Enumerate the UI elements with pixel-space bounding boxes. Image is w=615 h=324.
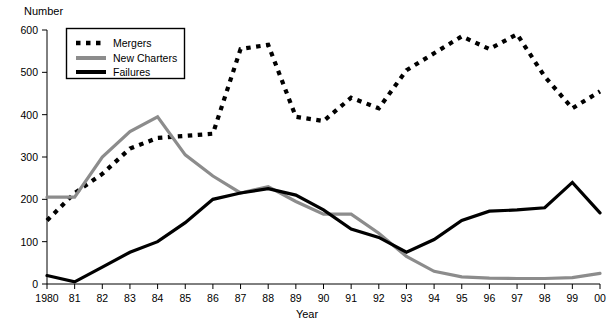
x-tick-label: 91 <box>345 292 357 304</box>
x-tick-label: 00 <box>594 292 606 304</box>
legend-label-failures: Failures <box>113 66 150 78</box>
series-line-new-charters <box>47 117 600 279</box>
x-tick-label: 81 <box>69 292 81 304</box>
y-tick-label: 500 <box>20 66 38 78</box>
x-axis-ticks: 1980818283848586878889909192939495969798… <box>35 284 606 304</box>
x-tick-label: 96 <box>484 292 496 304</box>
line-chart: Number 0100200300400500600 1980818283848… <box>0 0 615 324</box>
y-axis-ticks: 0100200300400500600 <box>20 24 47 290</box>
x-tick-label: 97 <box>511 292 523 304</box>
x-tick-label: 85 <box>179 292 191 304</box>
x-axis-title: Year <box>296 308 319 320</box>
x-tick-label: 89 <box>290 292 302 304</box>
legend-label-new-charters: New Charters <box>113 52 177 64</box>
x-tick-label: 99 <box>567 292 579 304</box>
y-tick-label: 300 <box>20 151 38 163</box>
x-tick-label: 83 <box>124 292 136 304</box>
y-tick-label: 200 <box>20 193 38 205</box>
x-tick-label: 93 <box>401 292 413 304</box>
x-tick-label: 88 <box>262 292 274 304</box>
x-tick-label: 95 <box>456 292 468 304</box>
x-tick-label: 94 <box>428 292 440 304</box>
chart-legend: MergersNew ChartersFailures <box>67 29 185 79</box>
x-tick-label: 98 <box>539 292 551 304</box>
x-tick-label: 90 <box>318 292 330 304</box>
legend-label-mergers: Mergers <box>113 37 152 49</box>
x-tick-label: 92 <box>373 292 385 304</box>
y-tick-label: 0 <box>32 278 38 290</box>
y-axis-title: Number <box>24 5 63 17</box>
y-tick-label: 600 <box>20 24 38 36</box>
x-tick-label: 84 <box>152 292 164 304</box>
x-tick-label: 87 <box>235 292 247 304</box>
y-tick-label: 100 <box>20 236 38 248</box>
series-line-failures <box>47 182 600 281</box>
x-tick-label: 1980 <box>35 292 59 304</box>
x-tick-label: 86 <box>207 292 219 304</box>
y-tick-label: 400 <box>20 109 38 121</box>
chart-page: Number 0100200300400500600 1980818283848… <box>0 0 615 324</box>
x-tick-label: 82 <box>96 292 108 304</box>
